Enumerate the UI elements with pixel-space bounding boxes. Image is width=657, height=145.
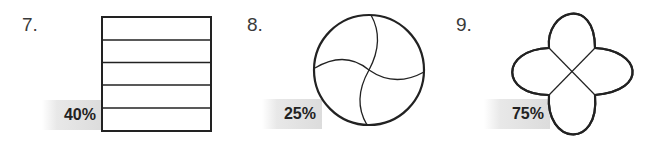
rectangle-figure (102, 17, 211, 131)
circle-figure (314, 15, 424, 125)
flower-figure (512, 14, 632, 135)
figures (0, 0, 657, 145)
